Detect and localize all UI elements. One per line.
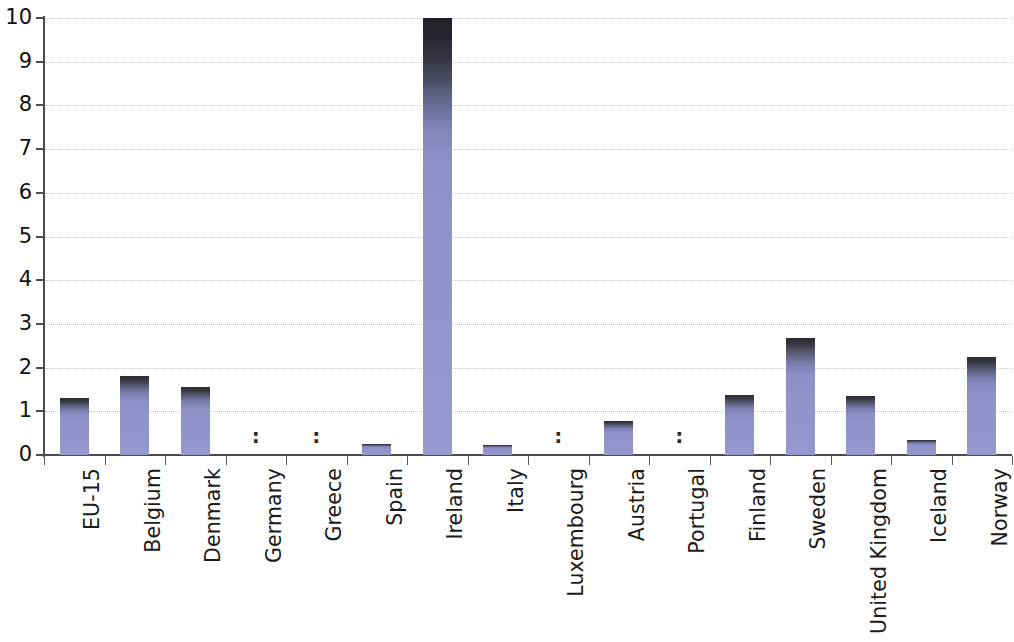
y-tick-mark: [36, 17, 44, 19]
x-axis-category-label: Ireland: [445, 468, 466, 540]
y-tick-label: 5: [0, 226, 32, 247]
y-tick-label: 3: [0, 313, 32, 334]
y-tick-mark: [36, 323, 44, 325]
y-tick-label: 6: [0, 182, 32, 203]
bar-chart-figure: 012345678910 :::: EU-15BelgiumDenmarkGer…: [0, 0, 1014, 642]
y-tick-label: 1: [0, 400, 32, 421]
x-tick-mark: [44, 456, 45, 465]
bar: [181, 387, 210, 455]
x-tick-mark: [468, 456, 469, 465]
x-axis-category-label: Norway: [990, 468, 1011, 546]
x-tick-mark: [226, 456, 227, 465]
bar: [362, 444, 391, 455]
x-tick-mark: [407, 456, 408, 465]
y-tick-mark: [36, 410, 44, 412]
y-tick-label: 10: [0, 7, 32, 28]
bar: [604, 421, 633, 455]
bar: [786, 338, 815, 455]
x-axis-category-label: Iceland: [929, 468, 950, 543]
x-axis-category-label: Finland: [748, 468, 769, 542]
x-axis-category-label: Luxembourg: [566, 468, 587, 597]
x-axis-category-label: Belgium: [143, 468, 164, 553]
missing-data-marker: :: [301, 431, 331, 441]
bar: [967, 357, 996, 455]
gridline: [44, 149, 1012, 150]
y-tick-label: 4: [0, 269, 32, 290]
x-tick-mark: [165, 456, 166, 465]
y-tick-mark: [36, 61, 44, 63]
x-axis-category-label: Greece: [324, 468, 345, 542]
y-tick-mark: [36, 279, 44, 281]
y-tick-label: 7: [0, 138, 32, 159]
y-tick-mark: [36, 236, 44, 238]
x-tick-mark: [347, 456, 348, 465]
x-axis-category-label: Italy: [506, 468, 527, 513]
x-tick-mark: [770, 456, 771, 465]
bar: [483, 445, 512, 455]
y-tick-mark: [36, 367, 44, 369]
y-tick-mark: [36, 192, 44, 194]
x-tick-mark: [710, 456, 711, 465]
x-axis-category-label: Spain: [385, 468, 406, 526]
bar: [60, 398, 89, 455]
x-tick-mark: [528, 456, 529, 465]
x-axis-category-label: Austria: [627, 468, 648, 541]
missing-data-marker: :: [241, 431, 271, 441]
x-axis-category-label: Sweden: [808, 468, 829, 550]
x-tick-mark: [105, 456, 106, 465]
missing-data-marker: :: [664, 431, 694, 441]
bar: [423, 18, 452, 455]
y-tick-mark: [36, 104, 44, 106]
y-tick-label: 9: [0, 51, 32, 72]
gridline: [44, 62, 1012, 63]
y-tick-label: 8: [0, 94, 32, 115]
x-tick-mark: [952, 456, 953, 465]
y-tick-label: 2: [0, 357, 32, 378]
bar: [907, 440, 936, 455]
x-axis-category-label: Portugal: [687, 468, 708, 554]
x-tick-mark: [891, 456, 892, 465]
x-axis-category-label: United Kingdom: [869, 468, 890, 634]
gridline: [44, 18, 1012, 19]
bar: [725, 395, 754, 455]
x-tick-mark: [589, 456, 590, 465]
y-tick-label: 0: [0, 444, 32, 465]
gridline: [44, 237, 1012, 238]
y-tick-mark: [36, 148, 44, 150]
gridline: [44, 105, 1012, 106]
x-axis-category-label: Denmark: [203, 468, 224, 563]
bar: [120, 376, 149, 455]
gridline: [44, 280, 1012, 281]
gridline: [44, 193, 1012, 194]
x-tick-mark: [286, 456, 287, 465]
bar: [846, 396, 875, 455]
gridline: [44, 368, 1012, 369]
x-tick-mark: [1012, 456, 1013, 465]
x-tick-mark: [831, 456, 832, 465]
gridline: [44, 324, 1012, 325]
missing-data-marker: :: [543, 431, 573, 441]
x-tick-mark: [649, 456, 650, 465]
x-axis-category-label: Germany: [264, 468, 285, 563]
x-axis-category-label: EU-15: [82, 468, 103, 530]
